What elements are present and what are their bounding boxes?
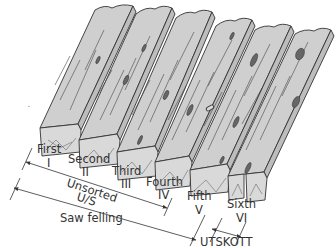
label-fifth-numeral: V bbox=[195, 203, 203, 217]
label-second-numeral: II bbox=[82, 165, 89, 179]
stray-mark: ʻ bbox=[28, 104, 30, 111]
label-saw-felling: Saw felling bbox=[60, 211, 123, 225]
label-sixth: Sixth bbox=[227, 197, 256, 211]
timber-grading-diagram: ʻ First I Second II Third III Fourth IV … bbox=[0, 0, 336, 248]
label-fourth-numeral: IV bbox=[158, 188, 169, 202]
label-utskott: UTSKOTT bbox=[200, 235, 254, 248]
label-second: Second bbox=[68, 152, 110, 166]
label-first: First bbox=[37, 142, 62, 156]
label-fourth: Fourth bbox=[146, 175, 183, 189]
label-third: Third bbox=[111, 164, 141, 178]
label-fifth: Fifth bbox=[187, 189, 212, 203]
label-third-numeral: III bbox=[121, 177, 131, 191]
label-first-numeral: I bbox=[47, 156, 50, 170]
